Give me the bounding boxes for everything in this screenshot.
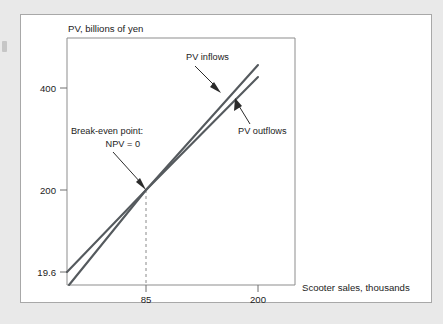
plot-frame [67, 38, 295, 285]
pv-inflows-leader-line [195, 66, 215, 86]
series-line-pv-inflows [67, 65, 258, 272]
chart-stage: PV, billions of yen 400 200 19.6 85 200 … [0, 0, 443, 324]
pv-outflows-leader-line [239, 106, 250, 124]
annotation-pv-inflows: PV inflows [186, 52, 229, 62]
y-tick-label-200: 200 [40, 185, 56, 196]
series-line-pv-outflows [69, 77, 258, 285]
x-axis-title: Scooter sales, thousands [302, 282, 410, 293]
y-tick-label-400: 400 [40, 83, 56, 94]
break-even-leader-line [113, 152, 141, 183]
annotation-break-even-line2: NPV = 0 [106, 139, 140, 149]
break-even-chart: PV, billions of yen 400 200 19.6 85 200 … [0, 0, 443, 324]
x-tick-label-200: 200 [250, 294, 266, 305]
annotation-break-even-line1: Break-even point: [71, 126, 143, 136]
y-axis-title: PV, billions of yen [68, 23, 143, 34]
annotation-pv-outflows: PV outflows [238, 126, 287, 136]
pv-inflows-arrow-icon [210, 82, 221, 93]
x-tick-label-85: 85 [141, 294, 152, 305]
y-tick-label-19-6: 19.6 [37, 267, 56, 278]
